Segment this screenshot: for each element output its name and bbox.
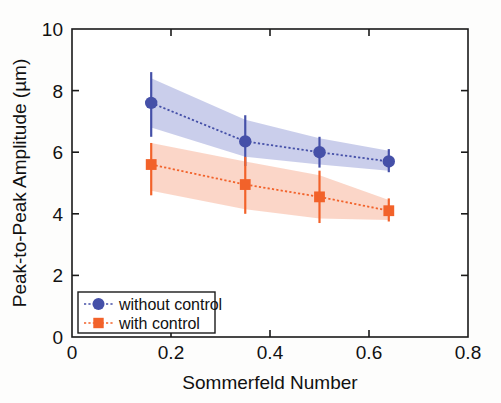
- data-point: [383, 155, 395, 167]
- legend-label: without control: [118, 296, 222, 313]
- legend-label: with control: [118, 315, 200, 332]
- line-chart-svg: 00.20.40.60.8 0246810 Sommerfeld Number …: [0, 0, 501, 403]
- data-point: [145, 97, 157, 109]
- x-tick-label: 0.8: [455, 342, 481, 363]
- data-point: [314, 191, 325, 202]
- y-tick-label: 6: [52, 142, 63, 163]
- legend-marker: [93, 318, 103, 328]
- y-tick-label: 8: [52, 81, 63, 102]
- y-tick-label: 2: [52, 265, 63, 286]
- data-point: [146, 159, 157, 170]
- data-point: [383, 205, 394, 216]
- legend-marker: [93, 298, 105, 310]
- data-point: [239, 135, 251, 147]
- chart-legend[interactable]: without controlwith control: [78, 292, 222, 333]
- x-axis-title: Sommerfeld Number: [182, 372, 358, 393]
- x-tick-label: 0.2: [158, 342, 184, 363]
- x-tick-label: 0.6: [356, 342, 382, 363]
- data-point: [313, 146, 325, 158]
- chart-figure: 00.20.40.60.8 0246810 Sommerfeld Number …: [0, 0, 501, 403]
- x-tick-label: 0.4: [257, 342, 284, 363]
- x-tick-labels: 00.20.40.60.8: [67, 342, 482, 363]
- y-tick-label: 4: [52, 204, 63, 225]
- y-tick-label: 10: [42, 19, 63, 40]
- data-point: [240, 179, 251, 190]
- y-tick-labels: 0246810: [42, 19, 64, 348]
- x-tick-label: 0: [67, 342, 78, 363]
- y-tick-label: 0: [52, 327, 63, 348]
- y-axis-title: Peak-to-Peak Amplitude (µm): [9, 59, 30, 308]
